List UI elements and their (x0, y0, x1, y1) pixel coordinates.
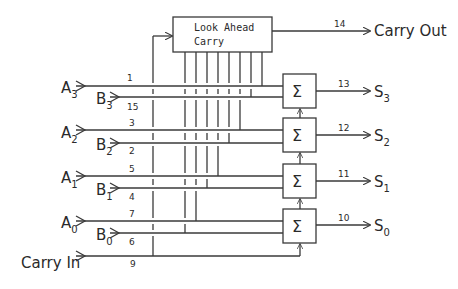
svg-text:13: 13 (338, 79, 349, 89)
svg-text:B0: B0 (96, 226, 113, 247)
output-s3: 13 S3 (316, 79, 390, 104)
svg-text:12: 12 (338, 123, 349, 133)
svg-text:S0: S0 (374, 217, 390, 238)
carry-in-signal: Carry In 9 (21, 36, 300, 272)
output-s0: 10 S0 (316, 213, 390, 238)
input-a3: A3 1 (61, 73, 283, 100)
svg-text:B3: B3 (96, 90, 113, 111)
output-s2: 12 S2 (316, 123, 390, 148)
input-b2: B2 2 (96, 136, 283, 157)
svg-text:A3: A3 (61, 79, 78, 100)
svg-text:11: 11 (338, 169, 349, 179)
pin-b0: 6 (129, 237, 135, 247)
adder-diagram: Look Ahead Carry 14 Carry Out Carry In 9 (0, 0, 458, 289)
svg-text:Σ: Σ (292, 217, 302, 236)
pin-a3: 1 (127, 73, 133, 83)
svg-text:S2: S2 (374, 127, 390, 148)
input-b0: B0 6 (96, 226, 283, 247)
pin-a1: 5 (129, 164, 135, 174)
input-a0: A0 7 (61, 209, 283, 235)
sum-block-1: Σ (283, 164, 316, 198)
svg-text:Σ: Σ (292, 126, 302, 145)
pin-a0: 7 (129, 209, 135, 219)
sum-block-3: Σ (283, 74, 316, 108)
pin-a2: 3 (129, 118, 135, 128)
svg-text:Σ: Σ (292, 172, 302, 191)
svg-text:10: 10 (338, 213, 350, 223)
input-a2: A2 3 (61, 118, 283, 145)
carry-out-pin: 14 (334, 19, 346, 29)
lookahead-bus (153, 52, 262, 236)
sum-block-0: Σ (283, 209, 316, 243)
carry-in-label: Carry In (21, 254, 80, 272)
pin-b3: 15 (127, 102, 138, 112)
svg-text:A2: A2 (61, 124, 78, 145)
svg-text:S1: S1 (374, 173, 390, 194)
svg-text:S3: S3 (374, 83, 390, 104)
svg-text:Σ: Σ (292, 82, 302, 101)
svg-text:A1: A1 (61, 169, 78, 190)
svg-text:B2: B2 (96, 136, 113, 157)
carry-in-pin: 9 (130, 259, 136, 269)
lookahead-carry-block: Look Ahead Carry (173, 17, 272, 52)
lookahead-label-line1: Look Ahead (194, 22, 254, 33)
output-s1: 11 S1 (316, 169, 390, 194)
carry-out-signal: 14 Carry Out (272, 19, 447, 40)
svg-text:A0: A0 (61, 214, 78, 235)
pin-b2: 2 (129, 146, 135, 156)
pin-b1: 4 (129, 192, 135, 202)
svg-text:B1: B1 (96, 181, 113, 202)
input-b1: B1 4 (96, 181, 283, 202)
lookahead-label-line2: Carry (194, 36, 224, 47)
input-a1: A1 5 (61, 164, 283, 190)
input-b3: B3 15 (96, 90, 283, 112)
sum-block-2: Σ (283, 118, 316, 152)
carry-out-label: Carry Out (374, 22, 447, 40)
